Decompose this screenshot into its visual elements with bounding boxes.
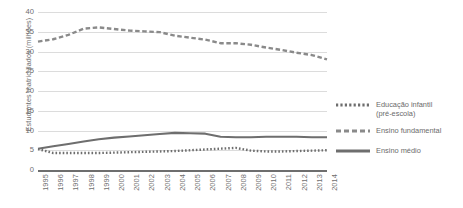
series-line	[38, 27, 327, 59]
x-tick-label: 2000	[117, 174, 126, 191]
x-tick-label: 2006	[208, 174, 217, 191]
x-tick-label: 2007	[224, 174, 233, 191]
y-tick-label: 40	[26, 8, 34, 16]
series-line	[38, 148, 327, 153]
y-tick-label: 10	[26, 127, 34, 135]
legend-swatch-dashed-icon	[336, 128, 370, 138]
x-tick-label: 2011	[284, 174, 293, 190]
legend-item-educacao-infantil: Educação infantil (pré-escola)	[336, 100, 463, 118]
x-tick-label: 2014	[330, 174, 339, 191]
chart-legend: Educação infantil (pré-escola) Ensino fu…	[336, 100, 463, 166]
legend-label-ensino-medio: Ensino médio	[376, 146, 421, 155]
legend-swatch-solid-icon	[336, 148, 370, 158]
x-tick-label: 2008	[239, 174, 248, 191]
legend-item-ensino-fundamental: Ensino fundamental	[336, 126, 463, 138]
y-tick-label: 35	[26, 28, 34, 36]
series-lines	[38, 12, 327, 170]
legend-label-educacao-infantil: Educação infantil (pré-escola)	[376, 100, 432, 118]
x-tick-label: 2002	[147, 174, 156, 191]
x-tick-label: 2005	[193, 174, 202, 191]
legend-item-ensino-medio: Ensino médio	[336, 146, 463, 158]
x-tick-label: 2013	[315, 174, 324, 191]
y-tick-label: 20	[26, 87, 34, 95]
x-tick-label: 1995	[41, 174, 50, 191]
legend-label-line2: (pré-escola)	[376, 109, 415, 118]
x-tick-label: 2003	[163, 174, 172, 191]
x-tick-label: 2004	[178, 174, 187, 191]
x-tick-label: 1999	[102, 174, 111, 191]
gridline	[38, 170, 327, 172]
x-tick-label: 2009	[254, 174, 263, 191]
y-tick-label: 0	[30, 166, 34, 174]
chart-figure: Estudantes matriculados (milhões) 051015…	[0, 0, 463, 208]
legend-swatch-dotted-icon	[336, 102, 370, 112]
y-tick-label: 30	[26, 48, 34, 56]
y-tick-label: 15	[26, 107, 34, 115]
series-line	[38, 133, 327, 149]
legend-label-line1: Educação infantil	[376, 100, 432, 109]
x-tick-label: 1998	[87, 174, 96, 191]
x-tick-label: 2001	[132, 174, 141, 191]
y-tick-label: 5	[30, 146, 34, 154]
x-tick-label: 1996	[56, 174, 65, 191]
y-tick-label: 25	[26, 67, 34, 75]
plot-area	[38, 12, 327, 170]
legend-label-ensino-fundamental: Ensino fundamental	[376, 126, 441, 135]
x-tick-label: 2010	[269, 174, 278, 191]
x-tick-label: 1997	[71, 174, 80, 191]
x-tick-label: 2012	[300, 174, 309, 191]
